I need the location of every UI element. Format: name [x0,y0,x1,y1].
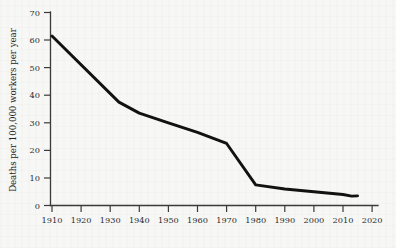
x-tick-label: 1930 [100,215,121,225]
y-axis-title: Deaths per 100,000 workers per year [8,27,18,192]
x-tick-labels: 1910 1920 1930 1940 1950 1960 1970 1980 … [42,215,383,225]
x-tick-marks [52,206,372,213]
y-tick-labels: 70 60 50 40 30 20 10 0 [30,8,40,211]
y-tick-label: 40 [30,90,40,100]
chart-svg: Deaths per 100,000 workers per year 70 6… [0,0,396,248]
x-tick-label: 1940 [129,215,150,225]
y-tick-label: 30 [30,118,40,128]
x-tick-label: 2020 [362,215,383,225]
y-tick-label: 50 [30,63,40,73]
x-tick-label: 1920 [71,215,92,225]
y-tick-label: 70 [30,8,40,18]
x-tick-label: 1960 [187,215,208,225]
data-series-line [52,36,358,196]
line-chart-figure: Deaths per 100,000 workers per year 70 6… [0,0,396,248]
x-tick-label: 1910 [42,215,63,225]
y-tick-label: 0 [35,201,40,211]
x-tick-label: 2010 [333,215,354,225]
y-tick-label: 20 [30,145,40,155]
x-tick-label: 1980 [245,215,266,225]
y-tick-label: 10 [30,173,40,183]
x-tick-label: 1990 [274,215,295,225]
x-axis: 1910 1920 1930 1940 1950 1960 1970 1980 … [42,206,383,226]
x-tick-label: 1950 [158,215,179,225]
x-tick-label: 2000 [303,215,324,225]
y-tick-marks [44,13,51,206]
y-tick-label: 60 [30,35,40,45]
x-tick-label: 1970 [216,215,237,225]
y-axis: 70 60 50 40 30 20 10 0 [30,8,51,211]
